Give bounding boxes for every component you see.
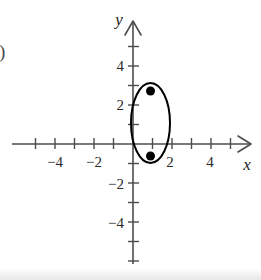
axis-lines	[12, 22, 249, 264]
figure-canvas: )	[0, 0, 261, 280]
axis-arrowheads	[125, 21, 251, 152]
y-tick-label-4: 4	[117, 58, 125, 74]
x-tick-label--4: −4	[47, 154, 63, 170]
y-axis-label: y	[113, 10, 123, 29]
data-point-lower-focus	[146, 152, 155, 161]
x-tick-label-2: 2	[166, 154, 174, 170]
fragment-paren-label: )	[0, 41, 5, 63]
y-tick-label--4: −4	[108, 215, 124, 231]
y-tick-label-2: 2	[117, 97, 125, 113]
x-axis-label: x	[242, 155, 251, 174]
x-tick-label-4: 4	[206, 154, 214, 170]
x-axis-tick-labels: −4 −2 2 4	[47, 154, 214, 170]
data-point-upper-focus	[146, 87, 155, 96]
coordinate-plane-plot: )	[0, 0, 261, 280]
y-tick-label--2: −2	[108, 176, 124, 192]
x-tick-label--2: −2	[86, 154, 102, 170]
page-bottom-edge-band	[0, 269, 261, 280]
